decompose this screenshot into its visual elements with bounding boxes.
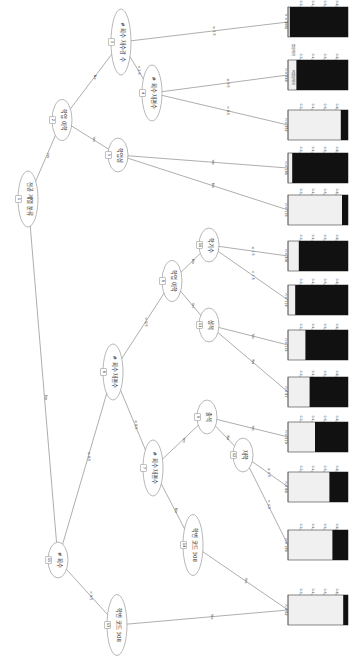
bar-outline [288,110,348,140]
terminal-node: 0.20.40.60.8n = 156 [284,523,348,560]
axis-tick-label: 0.4 [311,278,315,283]
edge-label: Yes [251,425,255,431]
node-id: 13 [106,623,110,628]
axis-tick-label: 0.2 [299,234,303,239]
edge-label: ≥ 0.5 [87,452,91,461]
terminal-n-label: n = 301 [284,249,288,262]
axis-tick-label: 0.6 [323,465,327,470]
terminal-n-label: n = 119 [284,293,288,306]
terminal-n-label: n = 210 [284,430,288,443]
axis-tick-label: 0.2 [299,465,303,470]
tree-edge [209,245,288,300]
bar-fill [299,241,348,271]
axis-tick-label: 0.8 [335,465,339,470]
terminal-node: 0.20.40.60.8n = 301 [284,234,348,271]
node-id: 5 [107,154,111,156]
tree-edge [209,245,288,256]
edge-label: Yes [191,302,195,308]
axis-tick-label: 0.2 [299,188,303,193]
terminal-n-label: n = 88 [284,481,288,492]
terminal-node: 0.20.40.60.8n = 210 [284,415,348,452]
bar-fill [296,60,348,90]
terminal-node: 0.20.40.60.8n = 97 [284,370,348,407]
tree-edge [58,372,113,560]
bar-outline [288,195,348,225]
tree-edge [152,93,288,125]
axis-tick-label: 0.6 [323,370,327,375]
axis-tick-label: 0.4 [311,465,315,470]
axis-tick-label: 0.8 [335,53,339,58]
node-label: 학업 이학 [60,109,68,131]
terminal-node: 0.20.40.60.8n = 196 [284,146,348,183]
bar-fill [341,110,348,140]
axis-tick-label: 0.8 [335,188,339,193]
edge-label: ≥ 0.5 [226,78,230,87]
axis-tick-label: 0.4 [311,103,315,108]
edge-label: ≥ 1.5 [251,246,255,255]
edge-label: < 1.5 [251,271,255,280]
edge-label: No [93,75,97,80]
terminal-n-label: n = 97 [284,386,288,397]
node-label: 출석 [205,412,213,422]
axis-tick-label: 0.4 [311,323,315,328]
axis-tick-label: 0.6 [323,53,327,58]
node-label: 학기수 [207,238,215,253]
node-label: 전공 계열 분류 [26,182,34,215]
axis-tick-label: 0.6 [323,523,327,528]
tree-edge [243,455,288,545]
tree-edge [118,155,288,210]
edge-label: No [211,183,215,188]
tree-edge [152,75,288,93]
node-label: 성적 [207,320,215,330]
edge-label: Yes [182,437,186,443]
terminal-node: 0.20.40.60.8n = 62 [284,588,348,625]
axis-tick-label: 0.4 [311,588,315,593]
bar-fill [329,472,348,502]
terminal-node: 0.20.40.60.8n = 174 [284,323,348,360]
node-id: 11 [198,323,202,328]
axis-tick-label: 0.8 [335,103,339,108]
axis-tick-label: 0.2 [299,523,303,528]
axis-tick-label: 0.2 [299,0,303,5]
terminal-n-label: n = 174 [284,338,288,351]
bar-fill [310,377,348,407]
axis-tick-label: 0.2 [299,53,303,58]
terminal-bar-charts: 0.20.40.60.8n = 20610.20.40.60.8n = 4480… [284,0,348,625]
axis-tick-label: 0.4 [311,0,315,5]
node-id: 1 [17,198,21,200]
tree-edge [193,545,288,610]
bar-fill [305,330,348,360]
node-id: 2 [51,119,55,121]
axis-tick-label: 0.6 [323,146,327,151]
terminal-n-label: n = 156 [284,538,288,551]
axis-tick-label: 0.2 [299,370,303,375]
axis-tick-label: 0.4 [311,523,315,528]
tree-nodes: 전공 계열 분류1학업 이학2# 회수 재수강 수3# 회수 재편수4학업성5#… [16,9,254,656]
axis-tick-label: 0.8 [335,415,339,420]
edge-label: < 4.5 [267,500,271,509]
terminal-node: 0.20.40.60.8n = 119 [284,278,348,315]
bar-fill [332,530,348,560]
node-label: 학업성 [116,148,124,163]
node-id: 10 [198,243,202,248]
axis-tick-label: 0.4 [311,370,315,375]
tree-edge [207,417,288,437]
axis-tick-label: 0.8 [335,234,339,239]
axis-tick-label: 0.8 [335,278,339,283]
legend-entry: 비명문대학 [291,70,296,85]
node-id: 12 [232,453,236,458]
axis-tick-label: 0.6 [323,0,327,5]
axis-tick-label: 0.6 [323,415,327,420]
terminal-n-label: n = 133 [284,203,288,216]
tree-edge [118,155,288,168]
node-label: 학업 이학 [170,270,178,292]
terminal-n-label: n = 448 [284,68,288,81]
axis-tick-label: 0.8 [335,370,339,375]
node-id: 14 [182,543,186,548]
node-id: 15 [47,558,51,563]
terminal-n-label: n = 196 [284,161,288,174]
terminal-n-label: n = 62 [284,604,288,615]
edge-label: No [251,360,255,365]
axis-tick-label: 0.8 [335,0,339,5]
edge-label: < 0.5 [89,591,93,600]
